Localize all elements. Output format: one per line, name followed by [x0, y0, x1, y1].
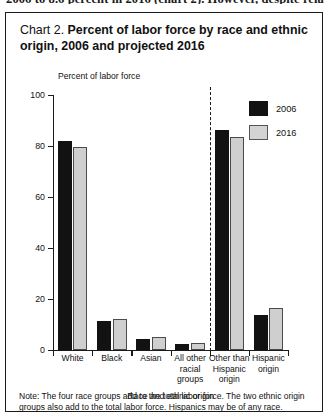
bar-2006-5 [254, 315, 268, 350]
bar-2006-2 [136, 339, 150, 350]
bar-2006-4 [215, 130, 229, 350]
legend-item-2006: 2006 [249, 101, 296, 116]
chart-note: Note: The four race groups add to the to… [19, 391, 315, 412]
y-tick-label: 60 [35, 192, 45, 202]
bar-2006-0 [58, 141, 72, 350]
y-tick-label: 80 [35, 141, 45, 151]
y-tick-label: 100 [30, 90, 45, 100]
y-axis-label: Percent of labor force [58, 71, 140, 81]
y-tick-label: 20 [35, 294, 45, 304]
bar-2016-2 [152, 337, 166, 351]
bar-2016-4 [230, 137, 244, 350]
bar-2016-5 [269, 308, 283, 350]
y-tick-mark [48, 197, 54, 198]
x-label-line: origin [206, 374, 253, 385]
chart-legend: 2006 2016 [249, 101, 296, 149]
bar-2006-3 [175, 344, 189, 350]
bar-2016-1 [113, 319, 127, 350]
y-tick-mark [48, 146, 54, 147]
x-label-line: Hispanic [245, 353, 292, 364]
clipped-body-text: 2006 to 8.6 percent in 2016 (chart 2). H… [0, 0, 330, 4]
x-label-5: Hispanicorigin [245, 353, 292, 374]
y-tick-mark [48, 299, 54, 300]
legend-label-2006: 2006 [276, 104, 296, 114]
figure-page: 2006 to 8.6 percent in 2016 (chart 2). H… [0, 0, 330, 417]
y-tick-label: 40 [35, 243, 45, 253]
chart-title-text: Percent of labor force by race and ethni… [20, 23, 308, 53]
group-divider-line [210, 87, 211, 351]
legend-swatch-2016-icon [249, 125, 268, 140]
y-axis [53, 95, 54, 350]
x-label-line: origin [245, 364, 292, 375]
bar-2006-1 [97, 321, 111, 350]
legend-label-2016: 2016 [276, 128, 296, 138]
y-tick-mark [48, 95, 54, 96]
legend-swatch-2006-icon [249, 101, 268, 116]
bar-2016-0 [73, 147, 87, 350]
chart-figure: Chart 2. Percent of labor force by race … [5, 12, 323, 412]
bar-2016-3 [191, 343, 205, 350]
chart-title-number: Chart 2. [20, 23, 64, 37]
legend-item-2016: 2016 [249, 125, 296, 140]
y-tick-mark [48, 248, 54, 249]
chart-title: Chart 2. Percent of labor force by race … [20, 23, 312, 54]
y-tick-label: 0 [40, 345, 45, 355]
